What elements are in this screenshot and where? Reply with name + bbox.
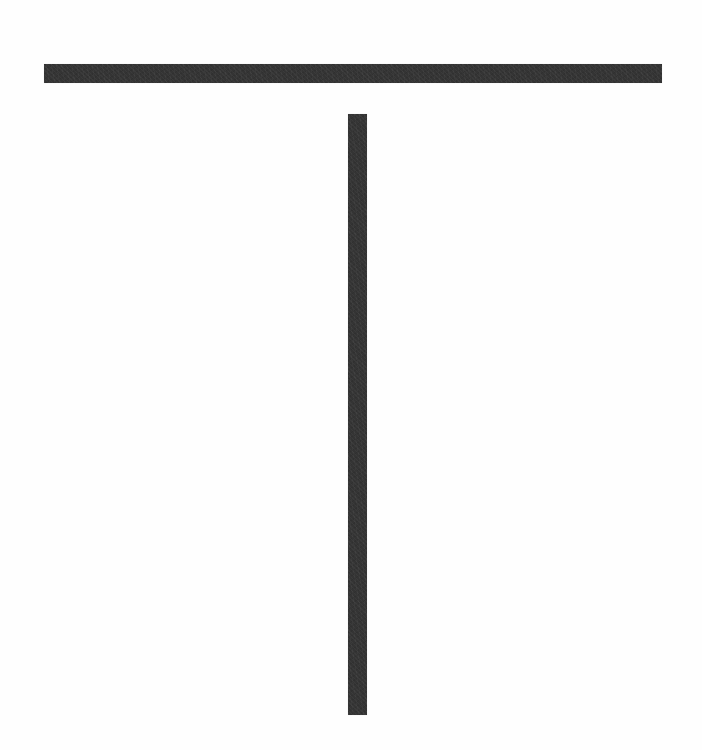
figure-canvas — [0, 0, 702, 750]
vertical-bar — [348, 114, 367, 715]
horizontal-bar — [44, 64, 662, 83]
